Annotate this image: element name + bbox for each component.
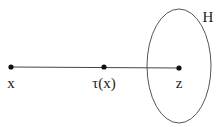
label-z: z	[176, 75, 183, 91]
label-x: x	[7, 75, 15, 91]
diagram-canvas: x τ(x) z H	[0, 0, 219, 127]
segment-x-to-z	[11, 67, 179, 68]
point-tau-x	[101, 64, 106, 69]
point-x	[8, 64, 13, 69]
label-tau-x: τ(x)	[92, 75, 116, 92]
label-set-h: H	[203, 9, 214, 25]
point-z	[176, 65, 181, 70]
